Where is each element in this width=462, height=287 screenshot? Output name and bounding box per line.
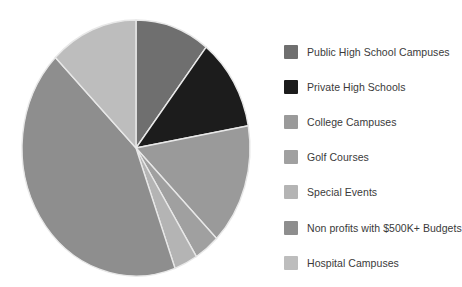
legend-item[interactable]: Non profits with $500K+ Budgets	[284, 210, 462, 245]
legend-swatch-icon	[284, 221, 298, 235]
legend-item[interactable]: College Campuses	[284, 104, 462, 139]
pie-svg	[0, 0, 272, 287]
legend-item[interactable]: Special Events	[284, 175, 462, 210]
legend-item[interactable]: Golf Courses	[284, 140, 462, 175]
legend-item[interactable]: Public High School Campuses	[284, 34, 462, 69]
legend-item-label: Public High School Campuses	[307, 46, 450, 58]
legend-item-label: Private High Schools	[307, 81, 405, 93]
legend-swatch-icon	[284, 115, 298, 129]
legend-item[interactable]: Private High Schools	[284, 69, 462, 104]
legend-swatch-icon	[284, 185, 298, 199]
legend-item-label: Golf Courses	[307, 151, 369, 163]
legend-swatch-icon	[284, 150, 298, 164]
legend-swatch-icon	[284, 80, 298, 94]
legend-item-label: Non profits with $500K+ Budgets	[307, 222, 462, 234]
legend-item[interactable]: Hospital Campuses	[284, 245, 462, 280]
legend-swatch-icon	[284, 256, 298, 270]
pie-plot-area	[0, 0, 272, 287]
legend-item-label: College Campuses	[307, 116, 397, 128]
legend-item-label: Hospital Campuses	[307, 257, 399, 269]
legend-item-label: Special Events	[307, 186, 377, 198]
legend-swatch-icon	[284, 45, 298, 59]
chart-legend: Public High School Campuses Private High…	[272, 0, 462, 287]
